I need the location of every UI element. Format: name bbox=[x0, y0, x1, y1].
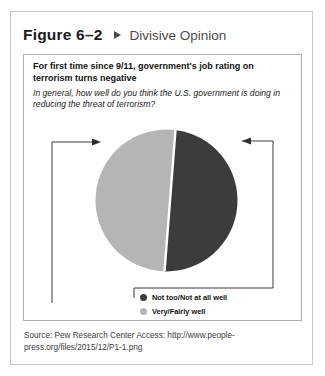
chart-panel: For first time since 9/11, government's … bbox=[23, 54, 302, 321]
figure-title: Divisive Opinion bbox=[130, 28, 227, 43]
pie-chart bbox=[24, 55, 301, 320]
legend-swatch-light-icon bbox=[140, 308, 147, 315]
legend-swatch-dark-icon bbox=[140, 294, 147, 301]
leader-line-very-fairly-well bbox=[52, 142, 92, 303]
legend-item-very-fairly-well: Very/Fairly well bbox=[140, 304, 290, 318]
legend-label-not-too-not-at-all-well: Not too/Not at all well bbox=[152, 293, 227, 302]
legend-item-not-too-not-at-all-well: Not too/Not at all well bbox=[140, 290, 290, 304]
pie-chart-svg bbox=[24, 55, 301, 320]
pie-slice-not-too-not-at-all-well bbox=[165, 130, 238, 271]
triangle-right-icon bbox=[114, 31, 121, 39]
figure-number: Figure 6–2 bbox=[23, 26, 103, 44]
chart-legend: Not too/Not at all well Very/Fairly well bbox=[140, 290, 290, 318]
source-note: Source: Pew Research Center Access: http… bbox=[24, 330, 300, 354]
legend-label-very-fairly-well: Very/Fairly well bbox=[152, 307, 205, 316]
figure-heading: Figure 6–2 Divisive Opinion bbox=[23, 22, 303, 48]
pie-slice-very-fairly-well bbox=[96, 129, 176, 271]
figure-card: Figure 6–2 Divisive Opinion For first ti… bbox=[10, 11, 313, 365]
leader-arrow-very-fairly-well bbox=[92, 139, 101, 146]
